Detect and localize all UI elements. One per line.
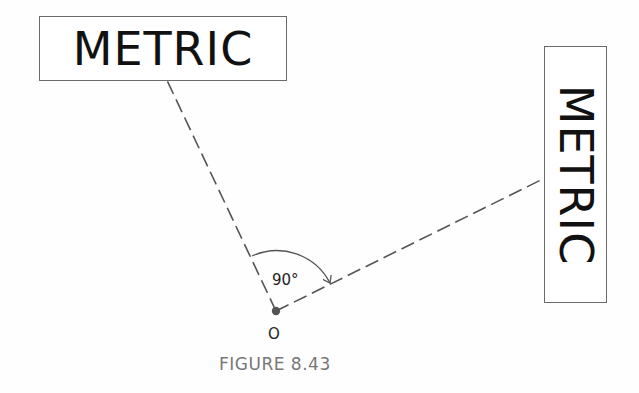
origin-label: O (268, 325, 280, 343)
horizontal-metric-box: METRIC (39, 16, 287, 81)
figure-canvas: METRIC METRIC 90° O FIGURE 8.43 (0, 0, 639, 393)
vertical-metric-box: METRIC (544, 46, 607, 303)
horizontal-metric-text: METRIC (73, 26, 254, 72)
right-ray-dashed-line (276, 173, 555, 311)
vertical-metric-text: METRIC (553, 84, 599, 265)
figure-caption: FIGURE 8.43 (219, 354, 331, 374)
origin-point (272, 307, 280, 315)
angle-label: 90° (272, 271, 299, 289)
left-ray-dashed-line (164, 74, 276, 311)
